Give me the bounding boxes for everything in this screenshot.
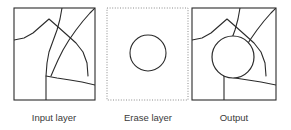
diagram-canvas: Input layer Erase layer Output xyxy=(0,0,291,130)
erase-operation-diagram: Input layer Erase layer Output xyxy=(0,0,291,130)
erase-layer-circle xyxy=(130,35,166,71)
erase-layer-label: Erase layer xyxy=(124,112,172,123)
panel-output: Output xyxy=(192,8,276,123)
input-layer-label: Input layer xyxy=(32,112,76,123)
output-label: Output xyxy=(220,112,249,123)
panel-erase-layer: Erase layer xyxy=(107,8,188,123)
panel-input-layer: Input layer xyxy=(14,8,95,123)
